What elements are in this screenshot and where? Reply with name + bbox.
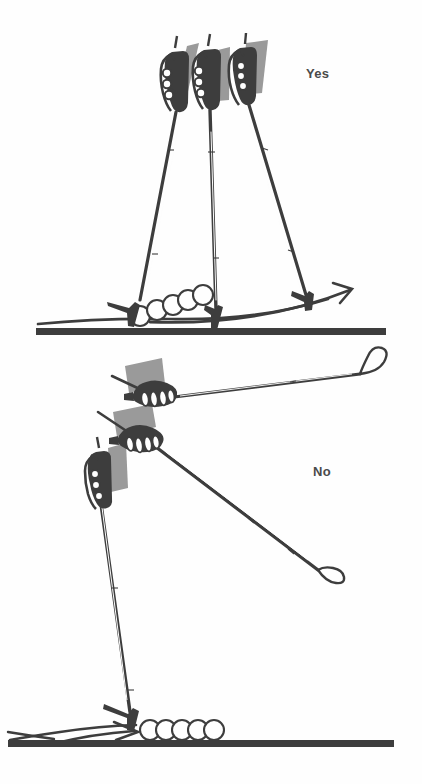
motion-circle	[204, 720, 224, 740]
ski-pole-technique-illustration	[0, 0, 422, 784]
ground-bar-lower	[8, 740, 394, 747]
label-yes: Yes	[306, 66, 329, 81]
motion-circle	[193, 285, 213, 305]
ground-bar-upper	[36, 328, 386, 335]
label-no: No	[313, 464, 331, 479]
figure-page: Yes No	[0, 0, 422, 784]
motion-circles-lower	[140, 720, 224, 740]
